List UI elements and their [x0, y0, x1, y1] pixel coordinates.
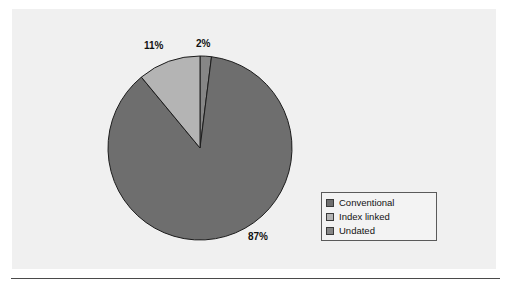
pie-chart-canvas	[0, 0, 509, 291]
legend-swatch-undated	[326, 227, 334, 235]
legend-label-undated: Undated	[339, 225, 375, 236]
legend-label-index-linked: Index linked	[339, 211, 390, 222]
legend-swatch-conventional	[326, 199, 334, 207]
pie-label-conventional: 87%	[248, 231, 268, 242]
pie-chart-figure: 11% 2% 87% Conventional Index linked Und…	[0, 0, 509, 291]
pie-label-index-linked: 11%	[144, 40, 163, 51]
pie-slices	[108, 56, 292, 240]
pie-label-undated: 2%	[196, 38, 210, 49]
legend-item-undated[interactable]: Undated	[326, 224, 432, 237]
chart-legend: Conventional Index linked Undated	[321, 192, 437, 241]
legend-swatch-index-linked	[326, 213, 334, 221]
footer-rule	[11, 278, 500, 279]
legend-item-index-linked[interactable]: Index linked	[326, 210, 432, 223]
legend-label-conventional: Conventional	[339, 197, 394, 208]
legend-item-conventional[interactable]: Conventional	[326, 196, 432, 209]
